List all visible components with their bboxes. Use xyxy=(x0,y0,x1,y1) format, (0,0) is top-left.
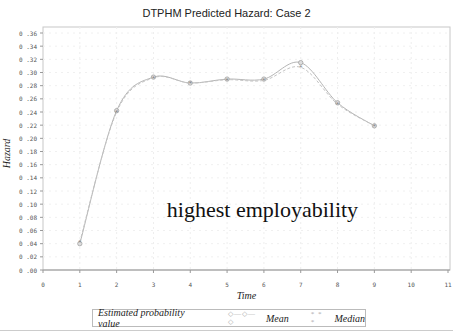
x-tick-label: 1 xyxy=(78,281,82,288)
x-tick-label: 2 xyxy=(115,281,119,288)
x-axis-label: Time xyxy=(0,290,453,301)
plot-area: 0 .000 .020 .040 .060 .080 .100 .120 .14… xyxy=(0,0,453,333)
y-tick-label: 0 .02 xyxy=(19,253,37,260)
x-tick-label: 11 xyxy=(444,281,452,288)
y-tick-label: 0 .24 xyxy=(19,109,37,116)
y-axis-label: Hazard xyxy=(1,139,12,169)
y-tick-label: 0 .18 xyxy=(19,148,37,155)
median-marker: * xyxy=(373,122,376,131)
legend-item-median: * * * Median xyxy=(311,310,365,326)
x-tick-label: 4 xyxy=(188,281,192,288)
y-tick-label: 0 .34 xyxy=(19,43,37,50)
y-tick-label: 0 .06 xyxy=(19,227,37,234)
y-tick-label: 0 .20 xyxy=(19,135,37,142)
x-tick-label: 0 xyxy=(41,281,45,288)
legend-mean-label: Mean xyxy=(266,313,289,324)
y-tick-label: 0 .12 xyxy=(19,188,37,195)
y-tick-label: 0 .00 xyxy=(19,267,37,274)
median-marker: * xyxy=(226,76,229,85)
y-tick-label: 0 .28 xyxy=(19,82,37,89)
y-tick-label: 0 .30 xyxy=(19,69,37,76)
chart-annotation: highest employability xyxy=(0,197,453,223)
x-tick-label: 10 xyxy=(408,281,416,288)
median-marker: * xyxy=(115,108,118,117)
y-tick-label: 0 .36 xyxy=(19,30,37,37)
legend-title: Estimated probability value xyxy=(98,307,206,329)
median-marker: * xyxy=(78,238,81,247)
x-tick-label: 8 xyxy=(336,281,340,288)
median-marker: * xyxy=(152,74,155,83)
x-tick-label: 9 xyxy=(373,281,377,288)
y-tick-label: 0 .04 xyxy=(19,240,37,247)
median-marker-icon: * * * xyxy=(311,310,329,326)
y-tick-label: 0 .16 xyxy=(19,161,37,168)
x-tick-label: 5 xyxy=(225,281,229,288)
median-marker: * xyxy=(299,63,302,72)
y-tick-label: 0 .26 xyxy=(19,95,37,102)
legend: Estimated probability value ◇—◇—◇ Mean *… xyxy=(92,309,366,327)
legend-item-mean: ◇—◇—◇ Mean xyxy=(228,310,311,326)
legend-median-label: Median xyxy=(334,313,365,324)
median-marker: * xyxy=(189,79,192,88)
x-tick-label: 7 xyxy=(299,281,303,288)
median-marker: * xyxy=(336,100,339,109)
bottom-divider xyxy=(0,330,453,331)
median-marker: * xyxy=(262,76,265,85)
x-tick-label: 3 xyxy=(152,281,156,288)
y-tick-label: 0 .22 xyxy=(19,122,37,129)
mean-marker-icon: ◇—◇—◇ xyxy=(228,310,260,326)
y-tick-label: 0 .14 xyxy=(19,174,37,181)
x-tick-label: 6 xyxy=(262,281,266,288)
y-tick-label: 0 .32 xyxy=(19,56,37,63)
